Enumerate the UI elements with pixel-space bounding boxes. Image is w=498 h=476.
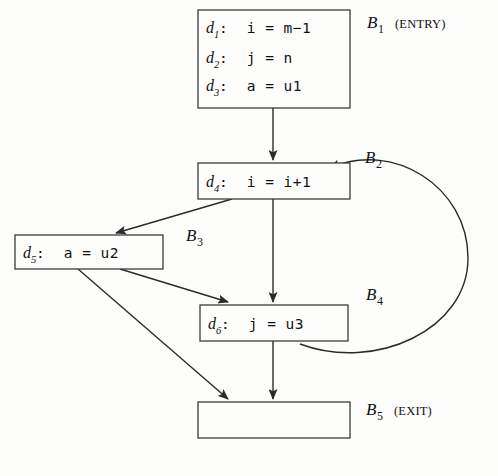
block-b4-label-subscript: 4 bbox=[377, 294, 383, 308]
block-b1-label: B bbox=[367, 13, 378, 32]
block-b2-label-subscript: 2 bbox=[376, 157, 382, 171]
block-b4-label: B bbox=[366, 285, 377, 304]
block-b3-label: B bbox=[186, 226, 197, 245]
block-b4[interactable]: d 6 : j = u3 bbox=[200, 305, 348, 341]
block-b2[interactable]: d 4 : i = i+1 bbox=[198, 163, 350, 199]
block-b1-stmt-2-code: : a = u1 bbox=[219, 78, 302, 94]
block-b5[interactable] bbox=[198, 402, 350, 438]
block-b1[interactable]: d 1 : i = m−1 d 2 : j = n d 3 : a = u1 bbox=[198, 10, 350, 108]
block-b2-label: B bbox=[365, 148, 376, 167]
block-b4-stmt-0-code: : j = u3 bbox=[221, 316, 304, 332]
block-b3-label-subscript: 3 bbox=[197, 235, 203, 249]
block-b5-tag: (EXIT) bbox=[394, 404, 432, 418]
block-b2-stmt-0-code: : i = i+1 bbox=[219, 174, 311, 190]
block-b3-stmt-0-code: : a = u2 bbox=[36, 245, 119, 261]
edge-b2-to-b3 bbox=[116, 199, 232, 233]
block-b5-label: B bbox=[366, 400, 377, 419]
diagram-canvas: d 1 : i = m−1 d 2 : j = n d 3 : a = u1 B… bbox=[0, 0, 498, 476]
block-b1-tag: (ENTRY) bbox=[395, 17, 446, 31]
edge-b3-to-b4 bbox=[120, 269, 228, 302]
block-b1-stmt-0-code: : i = m−1 bbox=[219, 20, 311, 36]
control-flow-graph-diagram: d 1 : i = m−1 d 2 : j = n d 3 : a = u1 B… bbox=[0, 0, 498, 476]
block-b5-box bbox=[198, 402, 350, 438]
block-b3[interactable]: d 5 : a = u2 bbox=[15, 235, 163, 269]
block-b1-label-subscript: 1 bbox=[378, 22, 384, 36]
block-b1-stmt-1-code: : j = n bbox=[219, 50, 293, 66]
block-b5-label-subscript: 5 bbox=[377, 409, 383, 423]
